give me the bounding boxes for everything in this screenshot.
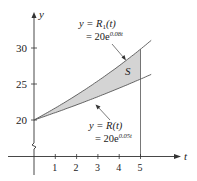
svg-text:= 20e0.05t: = 20e0.05t: [95, 132, 132, 144]
y-axis-break-icon: [32, 143, 36, 149]
x-axis-arrow-icon: [174, 154, 181, 159]
y-axis-arrow-icon: [32, 12, 37, 18]
pointer-upper: [112, 44, 124, 58]
y-axis-label: y: [38, 8, 44, 20]
y-tick-label-30: 30: [16, 42, 28, 54]
svg-text:y = R(t): y = R(t): [88, 120, 123, 132]
y-tick-label-25: 25: [16, 78, 28, 90]
upper-curve-annotation: y = R1(t) = 20e0.08t: [78, 18, 123, 42]
svg-text:= 20e0.08t: = 20e0.08t: [86, 30, 123, 42]
x-tick-label-1: 1: [52, 162, 57, 173]
y-tick-label-20: 20: [16, 114, 28, 126]
x-tick-label-4: 4: [116, 162, 121, 173]
x-tick-label-5: 5: [138, 162, 143, 173]
lower-curve-annotation: y = R(t) = 20e0.05t: [88, 120, 132, 144]
region-label-s: S: [125, 65, 131, 77]
shaded-region-s: [34, 49, 141, 120]
x-axis-label: t: [184, 150, 188, 162]
pointer-lower: [98, 107, 110, 120]
chart: y t 1 2 3 4 5 30 25 20 y = R1(t) = 20e0.…: [0, 0, 197, 181]
chart-canvas: y t 1 2 3 4 5 30 25 20 y = R1(t) = 20e0.…: [0, 0, 197, 181]
x-tick-label-3: 3: [95, 162, 100, 173]
x-tick-label-2: 2: [74, 162, 79, 173]
